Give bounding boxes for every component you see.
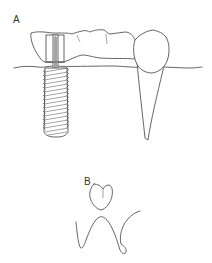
panel-b <box>76 184 140 254</box>
natural-tooth-crown <box>134 30 169 73</box>
implant-fixture <box>44 68 69 137</box>
panel-a <box>14 30 202 140</box>
diagram-canvas <box>0 0 212 263</box>
gum-line <box>14 66 202 68</box>
dental-implant-figure: A B <box>0 0 212 263</box>
tooth-occlusal-outline <box>90 184 113 210</box>
natural-tooth-root <box>137 62 163 140</box>
gingival-contour <box>76 211 140 254</box>
